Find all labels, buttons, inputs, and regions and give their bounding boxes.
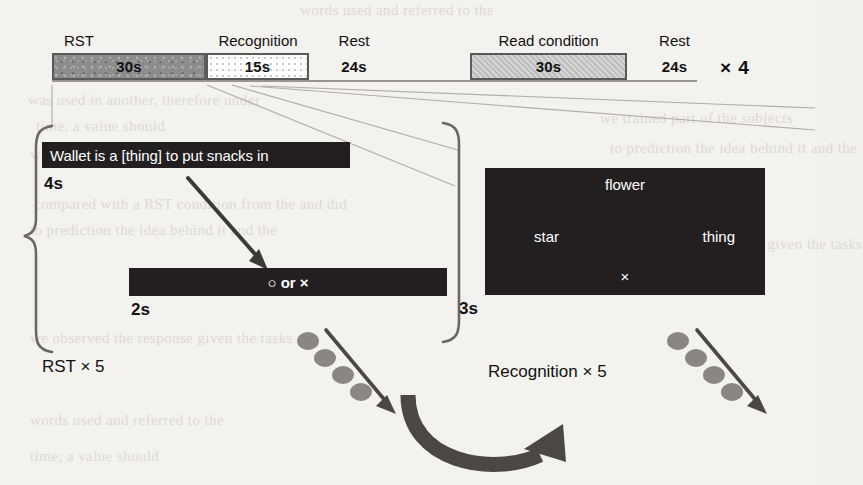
- timeline-block-rest-1: 24s: [309, 53, 399, 80]
- timeline-block-rest-2: 24s: [627, 53, 722, 80]
- cycle-loop-arrow: [408, 395, 566, 464]
- rst-cycle-label: RST × 5: [42, 357, 105, 377]
- timeline-block-rst: 30s: [52, 53, 206, 80]
- guide-line-1: [207, 85, 455, 186]
- timeline-repeat-count: × 4: [720, 57, 750, 79]
- timeline-label-rest-2: Rest: [627, 30, 722, 50]
- guide-line-3: [250, 86, 815, 130]
- bleed-text-line: words used and referred to the: [30, 412, 224, 429]
- rst-sentence-text: Wallet is a [thing] to put snacks in: [50, 147, 268, 164]
- recognition-repeat-trail: [667, 330, 767, 414]
- timeline-label-rest-1: Rest: [309, 30, 399, 50]
- paradigm-timeline: RST Recognition Rest Read condition Rest…: [0, 22, 815, 84]
- timeline-label-rst: RST: [52, 30, 218, 50]
- guide-line-4: [262, 86, 815, 108]
- recognition-word-left: star: [534, 228, 559, 245]
- bleed-text-line: words used and referred to the: [300, 2, 494, 19]
- fixation-cross-icon: ×: [485, 268, 765, 285]
- bleed-text-line: time; a value should: [36, 118, 165, 135]
- timeline-baseline: [52, 80, 697, 82]
- rst-sentence-box: Wallet is a [thing] to put snacks in: [42, 142, 350, 168]
- guide-line-2: [232, 85, 458, 150]
- recognition-cycle-label: Recognition × 5: [488, 362, 607, 382]
- bleed-text-line: to prediction the idea behind it and the: [30, 222, 277, 239]
- timeline-block-recognition: 15s: [206, 53, 309, 80]
- bleed-text-line: was used in another, therefore under: [28, 92, 260, 109]
- rst-sentence-duration: 4s: [44, 174, 63, 194]
- recognition-word-top: flower: [485, 176, 765, 193]
- timeline-label-recognition: Recognition: [196, 30, 320, 50]
- bleed-text-line: time; a value should: [30, 448, 159, 465]
- rst-response-prompt: ○ or ×: [267, 274, 308, 291]
- rst-repeat-trail: [297, 330, 396, 414]
- timeline-block-read: 30s: [470, 53, 627, 80]
- recognition-stimulus-box: flower star thing ×: [485, 168, 765, 295]
- timeline-label-read: Read condition: [460, 30, 637, 50]
- rst-response-box: ○ or ×: [129, 268, 447, 296]
- bleed-text-line: to prediction the idea behind it and the: [610, 140, 857, 157]
- bleed-text-line: compared with a RST condition from the a…: [34, 196, 347, 213]
- right-brace: [443, 123, 459, 342]
- bleed-text-line: we trained part of the subjects: [600, 110, 793, 127]
- bleed-text-line: we observed the response given the tasks: [30, 330, 293, 347]
- recognition-duration: 3s: [459, 299, 478, 319]
- rst-flow-arrow: [188, 178, 268, 270]
- recognition-word-right: thing: [702, 228, 735, 245]
- rst-response-duration: 2s: [131, 300, 150, 320]
